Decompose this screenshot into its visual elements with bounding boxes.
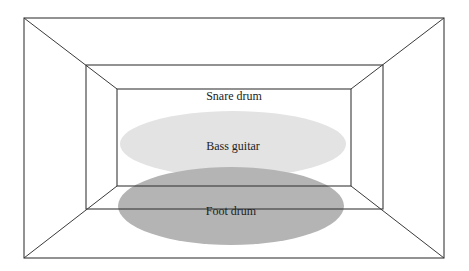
bass-guitar-label: Bass guitar — [206, 140, 260, 152]
foot-drum-label: Foot drum — [206, 205, 256, 217]
snare-drum-label: Snare drum — [206, 90, 262, 102]
stage-diagram — [0, 0, 469, 271]
